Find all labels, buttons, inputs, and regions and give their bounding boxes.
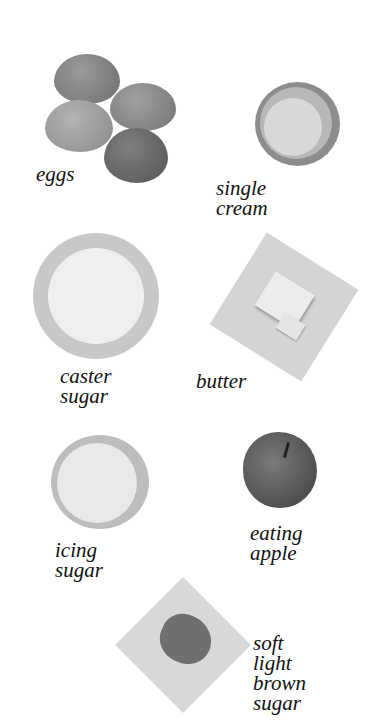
- single-cream-label: single cream: [216, 178, 268, 218]
- eating-apple-image: [243, 432, 317, 508]
- soft-light-brown-sugar-image: [115, 577, 251, 713]
- icing-sugar-image: [51, 435, 149, 529]
- caster-sugar-label: caster sugar: [60, 366, 111, 406]
- eggs-label: eggs: [36, 164, 75, 184]
- icing-sugar-label: icing sugar: [55, 540, 103, 580]
- single-cream-image: [255, 82, 340, 166]
- soft-light-brown-sugar-label: soft light brown sugar: [253, 633, 306, 713]
- butter-image: [210, 233, 359, 382]
- caster-sugar-image: [33, 233, 159, 359]
- eating-apple-label: eating apple: [250, 523, 303, 563]
- butter-label: butter: [196, 371, 246, 391]
